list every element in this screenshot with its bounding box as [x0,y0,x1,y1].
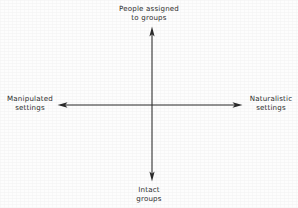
axis-label-bottom-line1: Intact [0,185,298,194]
axis-label-left-line2: settings [4,103,56,112]
axis-label-right: Naturalistic settings [245,94,297,112]
axis-label-top: People assigned to groups [0,4,298,22]
axis-label-bottom: Intact groups [0,185,298,203]
axis-label-left: Manipulated settings [4,94,56,112]
axis-label-top-line2: to groups [0,13,298,22]
axes-diagram: People assigned to groups Manipulated se… [0,0,298,208]
axis-label-bottom-line2: groups [0,194,298,203]
axis-label-left-line1: Manipulated [4,94,56,103]
axis-label-right-line2: settings [245,103,297,112]
axis-label-top-line1: People assigned [0,4,298,13]
axis-label-right-line1: Naturalistic [245,94,297,103]
